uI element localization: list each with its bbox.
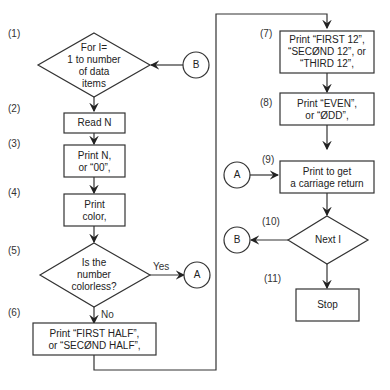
no-label: No (101, 309, 114, 320)
step-1-text: For I= 1 to number of data items (54, 42, 134, 90)
step-number-11: (11) (264, 273, 281, 284)
step-number-6: (6) (8, 307, 20, 318)
step-number-5: (5) (8, 245, 20, 256)
step-2-text: Read N (64, 117, 125, 129)
connector-b-top: B (189, 59, 203, 71)
step-number-1: (1) (8, 28, 20, 39)
step-6-text: Print “FIRST HALF”, or “SECØND HALF”, (33, 328, 156, 352)
step-3-text: Print N, or “00”, (64, 150, 125, 174)
connector-a-left: A (190, 269, 204, 281)
yes-label: Yes (153, 261, 169, 272)
step-number-10: (10) (262, 216, 280, 227)
step-8-text: Print “EVEN”, or “ØDD”, (280, 98, 374, 122)
step-number-9: (9) (262, 154, 274, 165)
step-7-text: Print “FIRST 12”, “SECØND 12”, or “THIRD… (280, 34, 374, 70)
step-11-text: Stop (296, 299, 359, 311)
connector-a-right: A (230, 169, 244, 181)
step-number-7: (7) (260, 28, 272, 39)
step-number-3: (3) (8, 138, 20, 149)
step-number-4: (4) (8, 187, 20, 198)
step-10-text: Next I (290, 234, 366, 246)
step-9-text: Print to get a carriage return (280, 166, 374, 190)
step-number-2: (2) (8, 103, 20, 114)
step-4-text: Print color, (64, 199, 125, 223)
connector-b-right: B (230, 234, 244, 246)
step-number-8: (8) (260, 97, 272, 108)
step-5-text: Is the number colorless? (54, 257, 134, 293)
